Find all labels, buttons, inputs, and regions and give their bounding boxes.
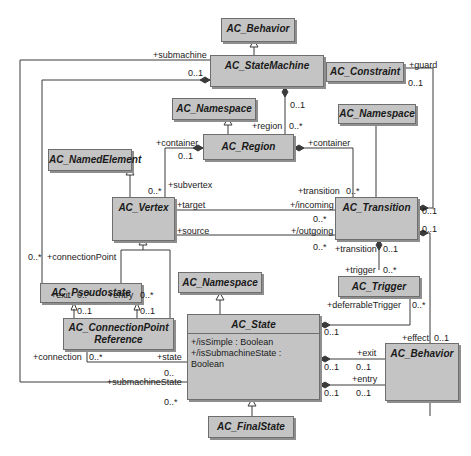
label-region-container-mult: 0..1 <box>178 151 193 161</box>
label-subvertex: +subvertex <box>168 180 212 190</box>
class-name: AC_StateMachine <box>211 56 323 72</box>
label-guard-transition-mult: 0..1 <box>422 206 437 216</box>
class-ac-behavior-top[interactable]: AC_Behavior <box>221 18 295 42</box>
class-ac-region[interactable]: AC_Region <box>203 134 294 160</box>
class-name: AC_ConnectionPoint <box>64 319 173 334</box>
label-target: +target <box>177 200 205 210</box>
label-exit-behavior-mult: 0..1 <box>356 362 371 372</box>
label-guard: +guard <box>409 60 437 70</box>
label-deferrable-trigger: +deferrableTrigger <box>327 300 401 310</box>
label-deferrable-trigger-mult: 0..* <box>412 300 426 310</box>
label-outgoing: +/outgoing <box>291 226 333 236</box>
class-ac-statemachine[interactable]: AC_StateMachine <box>210 55 324 87</box>
class-name: AC_FinalState <box>209 417 293 433</box>
label-sm-region-mult: 0..1 <box>290 100 305 110</box>
label-exit-ps: +exit <box>51 290 70 300</box>
label-effect-transition-mult: 0..1 <box>422 224 437 234</box>
label-transition-container: +container <box>308 138 350 148</box>
label-trigger-mult: 0..* <box>383 265 397 275</box>
label-submachine-state-mult: 0..* <box>164 397 178 407</box>
class-name: AC_Vertex <box>113 198 174 214</box>
class-ac-vertex[interactable]: AC_Vertex <box>112 197 175 241</box>
label-guard-mult: 0..1 <box>408 78 423 88</box>
class-name: AC_Namespace <box>173 99 255 115</box>
label-exit-ps-mult: 0..* <box>77 290 91 300</box>
label-cpr-entry-mult: 0..1 <box>140 306 155 316</box>
label-effect: +effect <box>402 333 429 343</box>
label-incoming-mult: 0..* <box>313 214 327 224</box>
label-exit-state-mult: 0..1 <box>324 362 339 372</box>
label-incoming: +/incoming <box>290 200 334 210</box>
class-ac-state[interactable]: AC_State +/isSimple : Boolean +/isSubmac… <box>187 314 320 400</box>
class-ac-namespace-transition[interactable]: AC_Namespace <box>338 104 416 124</box>
attribute-is-submachine-state: +/isSubmachineState : Boolean <box>191 348 316 370</box>
label-connection-mult: 0..* <box>89 352 103 362</box>
label-region: +region <box>252 121 282 131</box>
label-connection-point: +connectionPoint <box>47 252 116 262</box>
label-subvertex-mult: 0..* <box>148 186 162 196</box>
class-name: AC_Behavior <box>222 19 294 35</box>
label-trigger-transition-mult: 0..1 <box>383 244 398 254</box>
class-name: AC_Namespace <box>339 105 415 120</box>
class-attributes: +/isSimple : Boolean +/isSubmachineState… <box>188 333 319 373</box>
label-region-container: +container <box>156 138 198 148</box>
class-name: AC_NamedElement <box>49 150 131 166</box>
label-entry-ps: +entry <box>108 290 133 300</box>
label-transition: +transition <box>298 186 340 196</box>
class-ac-namespace-state[interactable]: AC_Namespace <box>178 272 262 293</box>
label-deferrable-state-mult: 0..1 <box>324 327 339 337</box>
class-name-line2: Reference <box>64 334 173 346</box>
label-source: +source <box>177 226 209 236</box>
class-ac-constraint[interactable]: AC_Constraint <box>326 62 404 82</box>
label-submachine-state: +submachineState <box>107 377 182 387</box>
label-transition-mult: 0..* <box>346 186 360 196</box>
label-connection-point-mult: 0..* <box>28 252 42 262</box>
label-region-mult: 0..* <box>289 121 303 131</box>
label-cpr-exit-mult: 0..1 <box>77 306 92 316</box>
attribute-is-simple: +/isSimple : Boolean <box>191 337 316 348</box>
label-submachine-mult: 0..1 <box>188 68 203 78</box>
class-name: AC_Namespace <box>179 273 261 289</box>
label-entry-behavior-mult: 0..1 <box>356 388 371 398</box>
label-outgoing-mult: 0..* <box>313 242 327 252</box>
label-trigger-transition: +transition <box>335 244 377 254</box>
label-entry-behavior: +entry <box>352 374 377 384</box>
label-entry-ps-mult: 0..* <box>140 290 154 300</box>
class-ac-namedelement[interactable]: AC_NamedElement <box>48 149 132 171</box>
class-name: AC_Region <box>204 135 293 153</box>
class-ac-behavior-bottom[interactable]: AC_Behavior <box>385 343 459 401</box>
class-name: AC_Behavior <box>386 344 458 360</box>
class-ac-connectionpoint-reference[interactable]: AC_ConnectionPoint Reference <box>63 318 174 350</box>
label-entry-state-mult: 0..1 <box>324 388 339 398</box>
class-name: AC_Trigger <box>339 277 419 293</box>
label-submachine: +submachine <box>153 50 207 60</box>
label-trigger: +trigger <box>345 265 376 275</box>
class-name: AC_State <box>188 315 319 333</box>
class-ac-finalstate[interactable]: AC_FinalState <box>208 416 294 438</box>
label-effect-mult: 0..1 <box>434 333 449 343</box>
class-ac-trigger[interactable]: AC_Trigger <box>338 276 420 297</box>
label-state: +state <box>157 352 182 362</box>
class-name: AC_Constraint <box>327 63 403 78</box>
class-ac-namespace-region[interactable]: AC_Namespace <box>172 98 256 120</box>
uml-diagram-canvas: AC_Behavior AC_StateMachine AC_Constrain… <box>0 0 471 456</box>
label-connection: +connection <box>33 352 82 362</box>
class-name: AC_Transition <box>336 198 417 214</box>
class-ac-transition[interactable]: AC_Transition <box>335 197 418 240</box>
label-exit-behavior: +exit <box>357 348 376 358</box>
